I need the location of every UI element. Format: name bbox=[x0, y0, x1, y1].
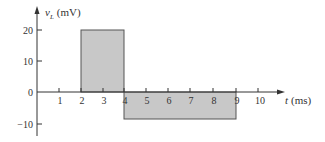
y-tick-label: 20 bbox=[23, 25, 33, 36]
voltage-chart: 20 10 0 −10 1 2 3 4 5 6 7 8 9 10 vL(mV) … bbox=[0, 0, 325, 142]
x-tick-label: 4 bbox=[123, 95, 128, 106]
x-tick-label: 7 bbox=[189, 95, 194, 106]
x-tick-label: 6 bbox=[167, 95, 172, 106]
x-axis-label: t(ms) bbox=[285, 94, 312, 107]
positive-pulse bbox=[81, 30, 124, 92]
x-tick-label: 5 bbox=[145, 95, 150, 106]
x-tick-label: 3 bbox=[102, 95, 107, 106]
y-axis-arrow-icon bbox=[35, 6, 40, 14]
x-tick-label: 2 bbox=[80, 95, 85, 106]
x-tick-label: 8 bbox=[212, 95, 217, 106]
x-axis-arrow-icon bbox=[277, 90, 285, 95]
x-tick-label: 10 bbox=[255, 95, 265, 106]
y-axis-label: vL(mV) bbox=[45, 6, 81, 21]
y-tick-label: 0 bbox=[28, 87, 33, 98]
y-ticks bbox=[37, 30, 42, 124]
y-tick-label: 10 bbox=[23, 56, 33, 67]
x-tick-label: 9 bbox=[235, 95, 240, 106]
negative-pulse bbox=[124, 92, 236, 119]
x-tick-label: 1 bbox=[58, 95, 63, 106]
y-tick-label: −10 bbox=[17, 119, 33, 130]
